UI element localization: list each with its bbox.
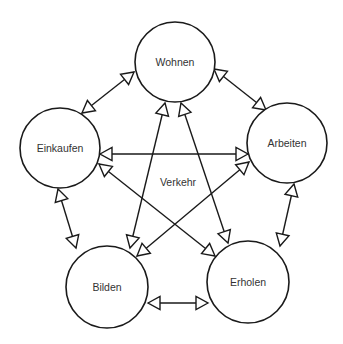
node-label: Arbeiten xyxy=(267,137,306,149)
arrowhead-icon-to-wohnen xyxy=(156,103,169,116)
node-label: Wohnen xyxy=(156,56,195,68)
edge-wohnen-arbeiten xyxy=(214,69,266,110)
edge-einkaufen-bilden xyxy=(55,189,78,248)
connector-line xyxy=(181,103,228,243)
node-arbeiten: Arbeiten xyxy=(247,103,327,183)
arrowhead-icon-to-arbeiten xyxy=(285,184,298,197)
arrowhead-icon-to-wohnen xyxy=(214,69,227,82)
arrowhead-icon-to-einkaufen xyxy=(99,164,112,177)
arrowhead-icon-to-arbeiten xyxy=(253,97,266,110)
arrowhead-icon-to-erholen xyxy=(276,233,289,246)
node-label: Bilden xyxy=(92,281,121,293)
connector-line xyxy=(99,164,215,256)
center-label-verkehr: Verkehr xyxy=(160,176,197,188)
transport-diagram: WohnenEinkaufenArbeitenBildenErholen Ver… xyxy=(0,0,343,344)
edge-arbeiten-erholen xyxy=(276,184,297,246)
edge-wohnen-einkaufen xyxy=(82,72,134,113)
arrowhead-icon-to-arbeiten xyxy=(236,148,248,161)
arrowhead-icon-to-bilden xyxy=(126,235,139,248)
node-erholen: Erholen xyxy=(207,241,289,323)
nodes-layer: WohnenEinkaufenArbeitenBildenErholen xyxy=(20,22,327,328)
arrowhead-icon-to-bilden xyxy=(148,297,160,310)
node-label: Einkaufen xyxy=(37,142,84,154)
arrowhead-icon-to-wohnen xyxy=(121,72,134,85)
edge-bilden-erholen xyxy=(148,297,208,310)
arrowhead-icon-to-einkaufen xyxy=(100,148,112,161)
node-einkaufen: Einkaufen xyxy=(20,108,100,188)
arrowhead-icon-to-bilden xyxy=(137,243,150,256)
node-wohnen: Wohnen xyxy=(135,22,215,102)
node-label: Erholen xyxy=(230,276,266,288)
edge-einkaufen-erholen xyxy=(99,164,215,256)
arrowhead-icon-to-erholen xyxy=(202,243,215,256)
edge-wohnen-erholen xyxy=(179,103,231,243)
arrowhead-icon-to-erholen xyxy=(218,230,230,243)
arrowhead-icon-to-erholen xyxy=(196,297,208,310)
arrowhead-icon-to-arbeiten xyxy=(236,162,249,175)
arrowhead-icon-to-bilden xyxy=(66,235,78,248)
edge-einkaufen-arbeiten xyxy=(100,148,248,161)
arrowhead-icon-to-wohnen xyxy=(179,103,191,116)
arrowhead-icon-to-einkaufen xyxy=(55,189,67,202)
arrowhead-icon-to-einkaufen xyxy=(82,100,95,113)
node-bilden: Bilden xyxy=(66,246,148,328)
